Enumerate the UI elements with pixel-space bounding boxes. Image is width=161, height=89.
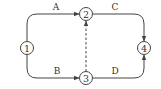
node-4-label: 4 (141, 43, 147, 54)
edge-b: B (27, 55, 79, 79)
edge-label-b: B (54, 66, 61, 76)
edge-c: C (93, 2, 145, 41)
node-4: 4 (138, 42, 151, 55)
edge-label-c: C (112, 2, 119, 12)
node-1: 1 (21, 42, 34, 55)
node-3-label: 3 (83, 73, 89, 84)
edge-label-d: D (111, 66, 118, 76)
edge-d: D (93, 55, 145, 78)
edge-label-a: A (52, 2, 60, 12)
edge-a: A (27, 2, 79, 42)
node-3: 3 (80, 72, 93, 85)
node-2: 2 (80, 8, 93, 21)
network-diagram: A B C D 1 2 3 (0, 0, 161, 89)
node-2-label: 2 (83, 9, 89, 20)
node-1-label: 1 (24, 43, 30, 54)
